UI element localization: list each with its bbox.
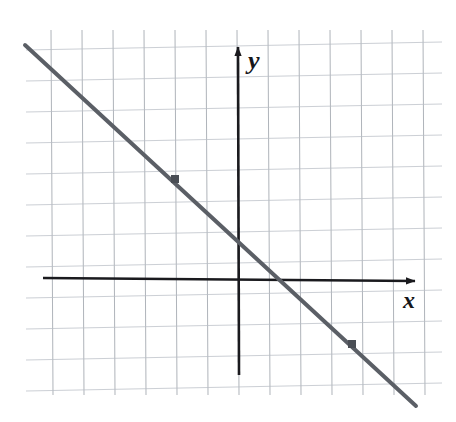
grid-line-vertical <box>361 30 363 395</box>
graph-canvas <box>0 0 456 422</box>
grid-layer <box>26 30 442 395</box>
grid-line-vertical <box>423 30 425 395</box>
marked-point-1 <box>171 175 179 183</box>
grid-line-vertical <box>330 30 332 395</box>
grid-line-horizontal <box>26 290 442 298</box>
axes-layer <box>43 47 415 375</box>
y-axis-label: y <box>248 48 260 74</box>
grid-line-horizontal <box>26 383 442 391</box>
grid-line-vertical <box>175 30 177 395</box>
grid-line-horizontal <box>26 166 442 174</box>
x-axis <box>43 278 415 281</box>
grid-line-vertical <box>299 30 301 395</box>
grid-line-horizontal <box>26 259 442 267</box>
grid-line-vertical <box>268 30 270 395</box>
grid-line-vertical <box>392 30 394 395</box>
grid-line-vertical <box>82 30 84 395</box>
grid-line-horizontal <box>26 197 442 205</box>
grid-line-vertical <box>51 30 53 395</box>
y-axis <box>238 47 239 375</box>
grid-line-horizontal <box>26 228 442 236</box>
x-axis-label: x <box>403 288 415 312</box>
grid-line-horizontal <box>26 321 442 329</box>
grid-line-vertical <box>144 30 146 395</box>
grid-line-vertical <box>113 30 115 395</box>
grid-line-horizontal <box>26 73 442 81</box>
grid-line-horizontal <box>26 135 442 143</box>
marked-point-2 <box>348 340 356 348</box>
coordinate-plane-figure: y x <box>0 0 456 422</box>
grid-line-horizontal <box>26 42 442 50</box>
grid-line-horizontal <box>26 352 442 360</box>
